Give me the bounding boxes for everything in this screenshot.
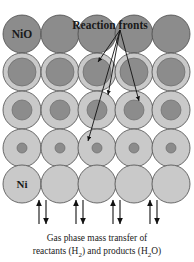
particle-row3-col4-core <box>124 100 144 120</box>
particle-row-5 <box>3 165 190 203</box>
particle-row4-col1-core <box>17 143 27 153</box>
particle-row2-col1-core <box>8 58 36 86</box>
particle-row-2 <box>3 53 190 91</box>
particle-row3-col5-core <box>161 100 181 120</box>
caption-line2-post: O) <box>151 246 161 257</box>
label-reaction-fronts: Reaction fronts <box>72 19 148 31</box>
diagram-canvas: NiO Reaction fronts Ni Gas phase mass tr… <box>0 0 194 262</box>
particle-row5-col5 <box>152 165 190 203</box>
particle-row2-col3-core <box>83 58 111 86</box>
particle-row5-col3 <box>78 165 116 203</box>
caption-line2-pre: reactants (H <box>33 246 79 257</box>
particle-row4-col4-core <box>129 143 139 153</box>
particle-row4-col5-core <box>166 143 176 153</box>
particle-row5-col2 <box>41 165 79 203</box>
particle-row5-col4 <box>115 165 153 203</box>
particle-row4-col3-core <box>92 143 102 153</box>
label-ni: Ni <box>17 178 28 190</box>
reaction-front-diagram-figure: NiO Reaction fronts Ni Gas phase mass tr… <box>0 0 194 262</box>
particle-row-4 <box>3 129 190 167</box>
particle-row1-col5 <box>152 15 190 53</box>
particle-row2-col5-core <box>157 58 185 86</box>
caption-line-1: Gas phase mass transfer of <box>47 233 148 243</box>
particle-row4-col2-core <box>55 143 65 153</box>
label-nio: NiO <box>12 28 33 40</box>
caption-line2-mid: ) and products (H <box>82 246 148 257</box>
particle-row3-col1-core <box>12 100 32 120</box>
particle-row3-col2-core <box>50 100 70 120</box>
particle-row2-col2-core <box>46 58 74 86</box>
